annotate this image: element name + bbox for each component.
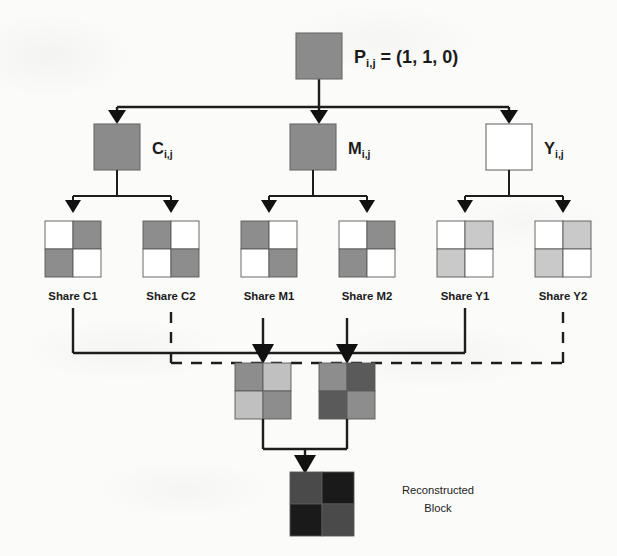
reconstructed-block xyxy=(290,472,354,536)
share-block-y1: Share Y1 xyxy=(437,221,493,302)
reconstructed-cell-bl xyxy=(290,504,322,536)
share-m1-cell-br xyxy=(269,249,297,277)
share-c1-cell-bl xyxy=(45,249,73,277)
channel-node-c: Ci,j xyxy=(94,124,173,170)
share-c1-cell-tr xyxy=(73,221,101,249)
reconstructed-block-caption: Reconstructed Block xyxy=(402,484,474,514)
connector-c-to-shares xyxy=(65,170,179,213)
connector-bus-to-stack1 xyxy=(252,318,274,364)
connector-root-to-channels xyxy=(117,79,509,113)
share-y1-cell-br xyxy=(465,249,493,277)
pixel-node-label: Pi,j = (1, 1, 0) xyxy=(354,47,458,69)
stack2-cell-tl xyxy=(319,363,347,391)
channel-c-label: Ci,j xyxy=(152,139,173,160)
channel-y-label: Yi,j xyxy=(544,139,564,160)
connector-dashed-stacking-bus xyxy=(171,312,563,363)
share-c1-cell-tl xyxy=(45,221,73,249)
arrow-root-to-y xyxy=(500,110,518,124)
channel-node-m: Mi,j xyxy=(290,124,371,170)
stack1-cell-bl xyxy=(235,391,263,419)
share-block-c1: Share C1 xyxy=(45,221,101,302)
share-block-m1: Share M1 xyxy=(241,221,297,302)
share-m2-cell-tl xyxy=(339,221,367,249)
share-y2-cell-tl xyxy=(535,221,563,249)
share-block-c2: Share C2 xyxy=(143,221,199,302)
stack2-cell-tr xyxy=(347,363,375,391)
channel-c-swatch xyxy=(94,124,140,170)
share-c1-label: Share C1 xyxy=(48,290,98,302)
share-y2-cell-br xyxy=(563,249,591,277)
visual-cryptography-diagram: Pi,j = (1, 1, 0) Ci,j Mi,j Yi,j xyxy=(0,0,617,556)
diagram-canvas: Pi,j = (1, 1, 0) Ci,j Mi,j Yi,j xyxy=(0,0,617,556)
share-c2-cell-tr xyxy=(171,221,199,249)
share-y1-cell-bl xyxy=(437,249,465,277)
share-m2-label: Share M2 xyxy=(342,290,393,302)
stack1-cell-br xyxy=(263,391,291,419)
arrow-root-to-m xyxy=(310,110,328,124)
share-m2-cell-bl xyxy=(339,249,367,277)
connector-y-to-shares xyxy=(457,170,571,213)
channel-y-swatch xyxy=(486,124,532,170)
reconstructed-cell-tl xyxy=(290,472,322,504)
channel-m-label: Mi,j xyxy=(348,139,371,160)
reconstructed-cell-tr xyxy=(322,472,354,504)
share-c2-cell-tl xyxy=(143,221,171,249)
share-y2-cell-bl xyxy=(535,249,563,277)
share-c2-cell-bl xyxy=(143,249,171,277)
stacked-block-2 xyxy=(319,363,375,419)
reconstructed-caption-line1: Reconstructed xyxy=(402,484,474,496)
reconstructed-cell-br xyxy=(322,504,354,536)
stacked-block-1 xyxy=(235,363,291,419)
stack2-cell-bl xyxy=(319,391,347,419)
connector-stacks-to-reconstructed xyxy=(263,419,347,474)
pixel-node-swatch xyxy=(296,33,342,79)
share-y2-label: Share Y2 xyxy=(539,290,588,302)
arrow-root-to-c xyxy=(108,110,126,124)
pixel-node: Pi,j = (1, 1, 0) xyxy=(296,33,458,79)
share-y1-label: Share Y1 xyxy=(441,290,490,302)
share-c2-cell-br xyxy=(171,249,199,277)
channel-node-y: Yi,j xyxy=(486,124,564,170)
stack1-cell-tl xyxy=(235,363,263,391)
share-m1-label: Share M1 xyxy=(244,290,295,302)
connector-bus-to-stack2 xyxy=(336,318,358,364)
share-y2-cell-tr xyxy=(563,221,591,249)
share-y1-cell-tl xyxy=(437,221,465,249)
share-m2-cell-tr xyxy=(367,221,395,249)
connector-m-to-shares xyxy=(261,170,375,213)
share-block-m2: Share M2 xyxy=(339,221,395,302)
share-c2-label: Share C2 xyxy=(146,290,195,302)
share-m1-cell-bl xyxy=(241,249,269,277)
share-c1-cell-br xyxy=(73,249,101,277)
stack1-cell-tr xyxy=(263,363,291,391)
share-block-y2: Share Y2 xyxy=(535,221,591,302)
share-m1-cell-tr xyxy=(269,221,297,249)
share-m2-cell-br xyxy=(367,249,395,277)
reconstructed-caption-line2: Block xyxy=(424,502,452,514)
share-m1-cell-tl xyxy=(241,221,269,249)
stack2-cell-br xyxy=(347,391,375,419)
share-y1-cell-tr xyxy=(465,221,493,249)
channel-m-swatch xyxy=(290,124,336,170)
